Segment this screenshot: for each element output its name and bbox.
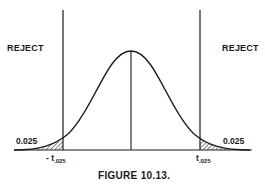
figure-caption: FIGURE 10.13. — [98, 170, 170, 181]
left-reject-label: REJECT — [7, 43, 44, 53]
t-distribution-figure: REJECT REJECT 0.025 0.025 - t.025 t.025 … — [0, 0, 265, 187]
left-critical-symbol: - t — [46, 153, 54, 163]
right-critical-value-label: t.025 — [196, 153, 211, 164]
right-reject-label: REJECT — [222, 43, 259, 53]
left-critical-value-label: - t.025 — [46, 153, 66, 164]
left-tail-probability: 0.025 — [16, 136, 37, 146]
right-critical-subscript: .025 — [199, 158, 211, 164]
right-tail-probability: 0.025 — [223, 136, 244, 146]
bell-curve-diagram — [0, 0, 265, 187]
density-curve — [14, 51, 250, 150]
left-critical-subscript: .025 — [54, 158, 66, 164]
